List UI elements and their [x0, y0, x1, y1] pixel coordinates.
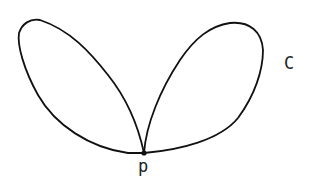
curve-diagram: C p	[0, 0, 312, 184]
curve-svg	[0, 0, 312, 184]
left-loop	[19, 20, 144, 153]
node-point-p	[141, 150, 146, 155]
node-label: p	[138, 158, 148, 175]
curve-label: C	[284, 55, 294, 72]
right-loop	[144, 23, 263, 153]
